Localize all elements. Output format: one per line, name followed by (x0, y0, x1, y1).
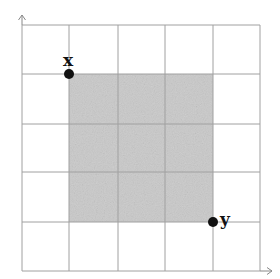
y-axis (19, 15, 26, 25)
x-axis (260, 268, 272, 275)
point-x-label: x (63, 50, 74, 70)
point-y-dot (208, 217, 218, 227)
point-x: x (63, 50, 74, 79)
point-y-label: y (219, 209, 231, 229)
shaded-square (69, 74, 213, 222)
point-x-dot (64, 69, 74, 79)
grid-diagram: x y (0, 0, 280, 279)
